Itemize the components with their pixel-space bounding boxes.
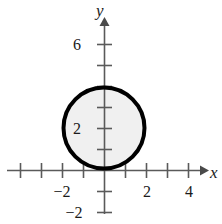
graph-figure: x y 6 2 −2 −2 2 4 <box>0 0 222 224</box>
y-tick-label-neg-2: −2 <box>61 205 87 221</box>
x-axis-arrowhead <box>200 166 209 176</box>
x-tick-label-2: 2 <box>138 184 156 200</box>
y-tick-label-6: 6 <box>68 37 86 53</box>
y-axis-label: y <box>96 2 104 19</box>
x-tick-label-4: 4 <box>180 184 198 200</box>
x-tick-label-neg-2: −2 <box>48 184 76 200</box>
y-tick-label-2: 2 <box>68 121 86 137</box>
x-axis-label: x <box>210 164 218 181</box>
